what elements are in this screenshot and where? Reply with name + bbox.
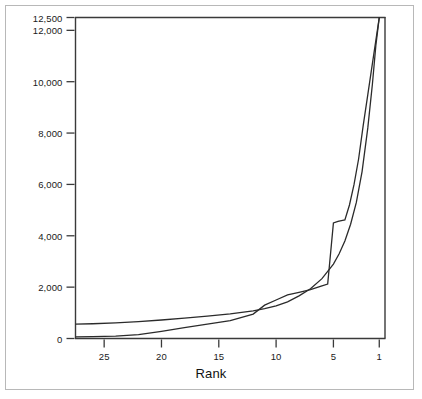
series-line-curve-upper-left: [76, 18, 380, 325]
data-series-group: [76, 18, 380, 337]
rank-line-chart: [0, 0, 422, 399]
x-tick-label: 10: [271, 351, 282, 362]
x-tick-label: 1: [377, 351, 382, 362]
y-tick-label: 8,000: [38, 128, 62, 139]
series-line-curve-lower-left: [76, 18, 380, 337]
chart-figure: 02,0004,0006,0008,00010,00012,00012,500 …: [0, 0, 422, 399]
y-tick-label: 0: [57, 333, 62, 344]
y-axis-ticks: [67, 18, 75, 339]
plot-axes: [75, 17, 386, 339]
y-tick-label: 10,000: [33, 76, 63, 87]
x-tick-label: 5: [331, 351, 336, 362]
y-tick-label: 6,000: [38, 179, 62, 190]
y-tick-label: 4,000: [38, 230, 62, 241]
y-tick-label: 12,500: [33, 12, 63, 23]
x-tick-label: 20: [156, 351, 167, 362]
y-tick-label: 2,000: [38, 282, 62, 293]
x-tick-label: 15: [213, 351, 224, 362]
x-axis-ticks: [104, 340, 379, 348]
y-tick-label: 12,000: [33, 25, 63, 36]
x-tick-label: 25: [99, 351, 110, 362]
x-axis-title: Rank: [0, 366, 422, 381]
